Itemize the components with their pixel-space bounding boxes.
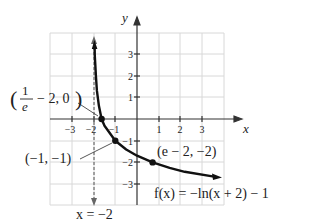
point-label-rest: − 2, 0: [37, 91, 69, 106]
x-tick-labels: −3 −2 −1 1 2 3: [65, 124, 205, 135]
x-tick-label: −2: [86, 124, 97, 135]
function-graph: x y −3 −2 −1 1 2 3 3 2 1 −1 −2 −3: [0, 0, 314, 224]
x-tick-label: 3: [200, 124, 205, 135]
y-tick-label: −3: [122, 179, 133, 190]
annotation-e-minus-2: (e − 2, −2): [157, 144, 217, 160]
y-axis-label: y: [120, 10, 128, 25]
point-e-minus-2: [149, 159, 155, 165]
y-tick-label: −2: [122, 157, 133, 168]
point-x-intercept: [98, 116, 104, 122]
x-tick-label: −3: [65, 124, 76, 135]
paren-right: ): [75, 86, 82, 111]
x-axis-label: x: [242, 121, 249, 136]
fraction-denominator: e: [22, 99, 28, 114]
x-tick-label: 1: [157, 124, 162, 135]
paren-left: (: [10, 86, 17, 111]
y-tick-label: −1: [122, 136, 133, 147]
annotation-neg1-neg1: (−1, −1): [25, 151, 71, 167]
function-label: f(x) = −ln(x + 2) − 1: [154, 186, 269, 202]
fraction-numerator: 1: [22, 83, 29, 98]
y-tick-label: 2: [128, 71, 133, 82]
x-tick-label: 2: [178, 124, 183, 135]
annotation-x-intercept: ( 1 e − 2, 0 ): [10, 83, 82, 114]
point-neg1-neg1: [112, 138, 118, 144]
y-tick-label: 3: [128, 49, 133, 60]
asymptote-label: x = −2: [76, 207, 113, 222]
y-tick-label: 1: [128, 92, 133, 103]
